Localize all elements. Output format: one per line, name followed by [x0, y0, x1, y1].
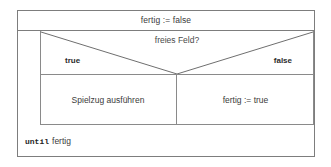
- true-branch-action-block: Spielzug ausführen: [40, 75, 177, 125]
- init-statement-block: fertig := false: [17, 10, 315, 31]
- struktogramm-diagram: fertig := false freies Feld? true false …: [0, 0, 331, 167]
- decision-block: freies Feld? true false: [40, 31, 314, 75]
- false-branch-action-block: fertig := true: [177, 75, 314, 125]
- decision-branch-row: Spielzug ausführen fertig := true: [40, 74, 314, 125]
- decision-condition-label: freies Feld?: [40, 35, 314, 45]
- until-condition-text: fertig: [52, 136, 71, 146]
- until-keyword: until: [25, 137, 49, 146]
- loop-until-footer: until fertig: [17, 125, 315, 157]
- decision-true-label: true: [65, 56, 80, 65]
- true-branch-action-text: Spielzug ausführen: [72, 95, 145, 105]
- decision-false-label: false: [274, 56, 292, 65]
- init-statement-text: fertig := false: [141, 15, 191, 25]
- false-branch-action-text: fertig := true: [223, 95, 269, 105]
